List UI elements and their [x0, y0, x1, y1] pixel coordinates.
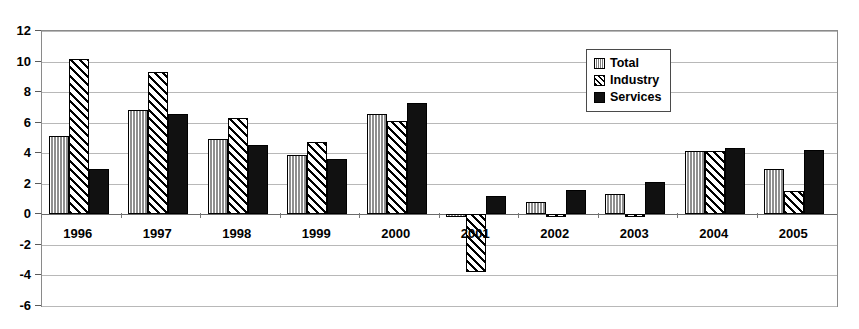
plot-area — [41, 30, 838, 307]
y-axis-tick-label: 10 — [17, 54, 31, 67]
x-axis-tick-mark — [121, 213, 122, 218]
legend-item-services: Services — [594, 89, 661, 106]
x-axis-tick-mark — [757, 213, 758, 218]
bar-industry-1996 — [69, 59, 89, 215]
legend-swatch-total-icon — [594, 58, 605, 69]
x-axis-tick-label: 2001 — [461, 227, 490, 240]
bar-industry-2002 — [546, 214, 566, 216]
bar-chart: 121086420-2-4-6 199619971998199920002001… — [0, 0, 859, 329]
x-axis-tick-mark — [280, 213, 281, 218]
bar-total-2003 — [605, 194, 625, 215]
bar-total-2001 — [446, 214, 466, 216]
bar-services-1998 — [248, 145, 268, 215]
x-axis-tick-label: 2004 — [699, 227, 728, 240]
bar-industry-2001 — [466, 214, 486, 272]
x-axis-tick-label: 1998 — [222, 227, 251, 240]
y-axis-tick-label: 8 — [24, 85, 31, 98]
x-axis-tick-mark — [598, 213, 599, 218]
x-axis-tick-mark — [518, 213, 519, 218]
x-axis-tick-mark — [677, 213, 678, 218]
bar-services-2005 — [804, 150, 824, 214]
bar-total-2002 — [526, 202, 546, 214]
x-axis-tick-label: 1999 — [302, 227, 331, 240]
bar-total-2004 — [685, 151, 705, 214]
bar-services-1999 — [327, 159, 347, 214]
x-axis-tick-label: 1996 — [63, 227, 92, 240]
x-axis-tick-mark — [200, 213, 201, 218]
legend-swatch-industry-icon — [594, 75, 605, 86]
bar-services-2000 — [407, 103, 427, 215]
legend-label-services: Services — [610, 91, 661, 104]
bar-total-2005 — [764, 169, 784, 215]
bar-total-1998 — [208, 139, 228, 214]
x-axis-tick-mark — [359, 213, 360, 218]
x-axis-tick-mark — [41, 213, 42, 218]
bar-industry-2000 — [387, 121, 407, 214]
bar-industry-1998 — [228, 118, 248, 214]
y-axis-tick-label: 0 — [24, 207, 31, 220]
y-axis-tick-label: -2 — [19, 237, 31, 250]
bar-services-1997 — [168, 114, 188, 215]
bar-services-2004 — [725, 148, 745, 214]
x-axis-tick-label: 1997 — [143, 227, 172, 240]
y-axis-tick-label: 12 — [17, 24, 31, 37]
bar-industry-1999 — [307, 142, 327, 215]
y-axis-tick-label: -6 — [19, 299, 31, 312]
x-axis-tick-label: 2002 — [540, 227, 569, 240]
y-axis-tick-label: 6 — [24, 115, 31, 128]
legend-label-total: Total — [610, 57, 639, 70]
bar-total-1999 — [287, 155, 307, 215]
bar-industry-2004 — [705, 151, 725, 214]
y-axis-tick-label: 4 — [24, 146, 31, 159]
gridline — [42, 306, 837, 307]
x-axis-tick-mark — [439, 213, 440, 218]
bar-services-2001 — [486, 196, 506, 214]
bar-industry-1997 — [148, 72, 168, 214]
y-axis-tick-label: -4 — [19, 268, 31, 281]
bars-layer — [42, 31, 837, 306]
x-axis-tick-label: 2003 — [620, 227, 649, 240]
x-axis-tick-label: 2000 — [381, 227, 410, 240]
bar-services-2002 — [566, 190, 586, 214]
y-axis-tick-label: 2 — [24, 176, 31, 189]
chart-legend: Total Industry Services — [586, 49, 671, 112]
bar-total-1996 — [49, 136, 69, 214]
bar-services-1996 — [89, 169, 109, 215]
bar-total-2000 — [367, 114, 387, 215]
bar-industry-2005 — [784, 191, 804, 214]
y-axis: 121086420-2-4-6 — [0, 30, 41, 307]
legend-label-industry: Industry — [610, 74, 659, 87]
bar-industry-2003 — [625, 214, 645, 217]
legend-item-industry: Industry — [594, 72, 661, 89]
legend-item-total: Total — [594, 55, 661, 72]
bar-total-1997 — [128, 110, 148, 214]
legend-swatch-services-icon — [594, 92, 605, 103]
bar-services-2003 — [645, 182, 665, 214]
x-axis-tick-label: 2005 — [779, 227, 808, 240]
